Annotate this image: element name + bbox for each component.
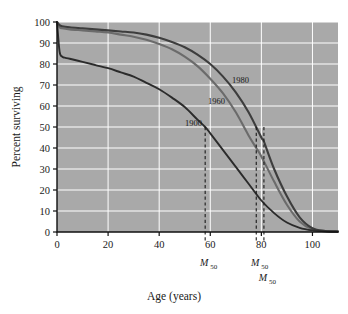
y-tick-label: 50 (40, 122, 51, 133)
m50-letter: M (199, 257, 209, 268)
m50-subscript: 50 (269, 278, 277, 286)
y-tick-label: 20 (40, 185, 51, 196)
y-axis-title: Percent surviving (10, 86, 23, 167)
y-tick-label: 70 (40, 80, 51, 91)
m50-letter: M (250, 257, 260, 268)
y-tick-label: 10 (40, 206, 51, 217)
curve-label-1900: 1900 (185, 118, 202, 128)
curve-label-1980: 1980 (232, 75, 249, 85)
x-tick-label: 100 (305, 239, 321, 250)
m50-1980-label: M50 (258, 272, 277, 286)
m50-1900-label: M50 (199, 257, 218, 271)
curve-label-1960: 1960 (208, 96, 225, 106)
y-tick-label: 0 (45, 227, 50, 238)
chart-svg: 0102030405060708090100 020406080100 1980… (0, 0, 348, 314)
survivorship-chart-figure: 0102030405060708090100 020406080100 1980… (0, 0, 348, 314)
x-tick-label: 40 (154, 239, 165, 250)
x-tick-label: 20 (103, 239, 114, 250)
m50-letter: M (258, 272, 268, 283)
x-tick-label: 60 (205, 239, 216, 250)
m50-subscript: 50 (210, 263, 218, 271)
y-tick-label: 80 (40, 59, 51, 70)
m50-1960-label: M50 (250, 257, 269, 271)
x-axis-title: Age (years) (147, 290, 201, 303)
m50-subscript: 50 (261, 263, 269, 271)
y-tick-label: 100 (34, 17, 50, 28)
y-tick-label: 30 (40, 164, 51, 175)
x-tick-label: 80 (256, 239, 267, 250)
y-tick-label: 90 (40, 38, 51, 49)
x-axis-tick-labels: 020406080100 (54, 239, 320, 250)
y-axis-tick-labels: 0102030405060708090100 (34, 17, 50, 238)
m50-annotation-labels: M50M50M50 (199, 257, 276, 286)
y-tick-label: 40 (40, 143, 51, 154)
x-tick-label: 0 (54, 239, 59, 250)
y-tick-label: 60 (40, 101, 51, 112)
